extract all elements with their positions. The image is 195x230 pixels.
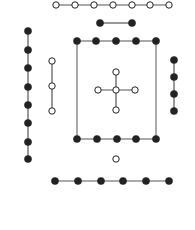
black-dot	[170, 90, 177, 97]
black-dot	[96, 19, 103, 26]
white-dot	[113, 107, 119, 113]
black-dot	[170, 107, 177, 114]
black-dot	[97, 177, 104, 184]
white-dot	[129, 2, 135, 8]
black-dot	[170, 56, 177, 63]
black-dot	[74, 177, 81, 184]
white-dot	[113, 156, 119, 162]
black-dot	[132, 135, 139, 142]
top-black-pair	[96, 19, 135, 26]
black-dot	[128, 19, 135, 26]
black-dot	[24, 119, 31, 126]
black-dot	[24, 101, 31, 108]
white-dot	[72, 2, 78, 8]
he-tu-diagram	[0, 0, 195, 230]
black-dot	[170, 73, 177, 80]
black-dot	[93, 135, 100, 142]
white-dot	[53, 2, 59, 8]
white-dot	[113, 69, 119, 75]
left-black-column	[24, 27, 31, 162]
black-dot	[73, 37, 80, 44]
white-dot	[91, 2, 97, 8]
black-dot	[24, 27, 31, 34]
white-dot	[49, 83, 55, 89]
black-dot	[132, 37, 139, 44]
square-top-row	[73, 37, 159, 44]
black-dot	[113, 135, 120, 142]
white-dot	[49, 58, 55, 64]
black-dot	[165, 177, 172, 184]
top-white-row	[53, 2, 172, 8]
white-dot	[132, 87, 138, 93]
white-dot	[166, 2, 172, 8]
right-black-column	[170, 56, 177, 114]
left-white-column	[49, 58, 55, 114]
black-dot	[73, 135, 80, 142]
black-dot	[142, 177, 149, 184]
white-dot	[110, 2, 116, 8]
black-dot	[152, 135, 159, 142]
white-dot	[113, 87, 119, 93]
black-dot	[24, 155, 31, 162]
black-dot	[24, 83, 31, 90]
white-dot	[147, 2, 153, 8]
black-dot	[24, 64, 31, 71]
black-dot	[92, 37, 99, 44]
black-dot	[119, 177, 126, 184]
black-dot	[152, 37, 159, 44]
black-dot	[112, 37, 119, 44]
center-cross	[95, 69, 138, 113]
white-dot	[95, 87, 101, 93]
square-bottom-row	[73, 135, 159, 142]
black-dot	[24, 138, 31, 145]
bottom-black-row	[51, 177, 172, 184]
black-dot	[24, 46, 31, 53]
bottom-white-single	[113, 156, 119, 162]
black-dot	[51, 177, 58, 184]
white-dot	[49, 108, 55, 114]
